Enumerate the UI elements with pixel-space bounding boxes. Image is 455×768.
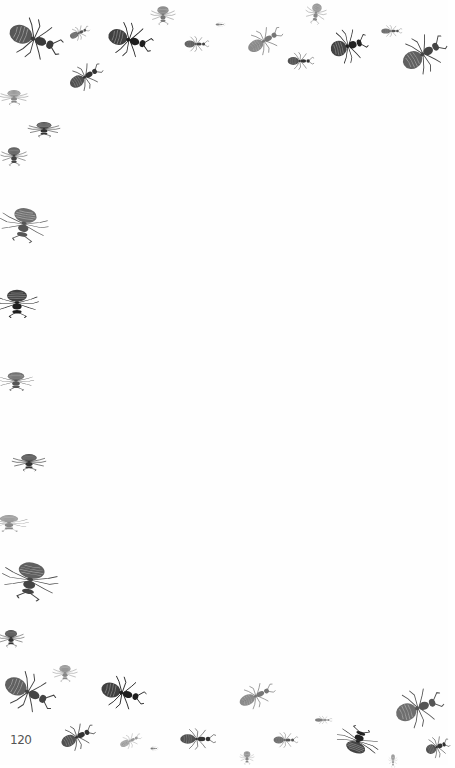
ant-illustration bbox=[0, 89, 29, 105]
ant-illustration bbox=[0, 629, 25, 647]
ant-illustration bbox=[215, 22, 225, 27]
blank-content-area bbox=[70, 90, 440, 660]
ant-illustration bbox=[101, 16, 157, 63]
ant-illustration bbox=[233, 677, 279, 716]
ant-illustration bbox=[150, 746, 158, 751]
ant-illustration bbox=[389, 754, 398, 768]
ant-illustration bbox=[0, 514, 30, 532]
ant-illustration bbox=[66, 22, 92, 44]
ant-illustration bbox=[150, 5, 176, 25]
ant-illustration bbox=[11, 453, 47, 471]
ant-illustration bbox=[272, 732, 298, 748]
ant-illustration bbox=[240, 20, 288, 63]
ant-illustration bbox=[0, 146, 28, 166]
ant-illustration bbox=[421, 732, 453, 762]
ant-illustration bbox=[332, 720, 385, 762]
ant-illustration bbox=[380, 25, 402, 37]
ant-illustration bbox=[54, 717, 99, 757]
ant-illustration bbox=[0, 202, 53, 246]
ant-illustration bbox=[0, 9, 68, 68]
ant-illustration bbox=[240, 751, 255, 765]
ant-illustration bbox=[303, 0, 328, 25]
ant-illustration bbox=[183, 36, 209, 52]
ant-illustration bbox=[286, 52, 314, 70]
ant-illustration bbox=[116, 730, 144, 753]
ant-illustration bbox=[52, 664, 78, 682]
ant-illustration bbox=[0, 555, 63, 605]
ant-illustration bbox=[178, 728, 216, 750]
ant-illustration bbox=[27, 121, 61, 137]
ant-illustration bbox=[0, 371, 35, 391]
ant-illustration bbox=[0, 288, 40, 318]
page-number: 120 bbox=[10, 733, 31, 747]
ant-illustration bbox=[324, 23, 372, 68]
ant-illustration bbox=[387, 680, 450, 735]
ant-illustration bbox=[94, 670, 149, 715]
ant-illustration bbox=[314, 716, 332, 724]
